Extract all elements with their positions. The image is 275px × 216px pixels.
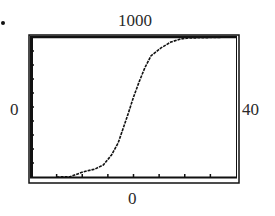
axis-ticks (31, 51, 210, 177)
logistic-curve (57, 37, 236, 177)
graph-plot (0, 0, 275, 216)
plot-frame (29, 35, 239, 183)
